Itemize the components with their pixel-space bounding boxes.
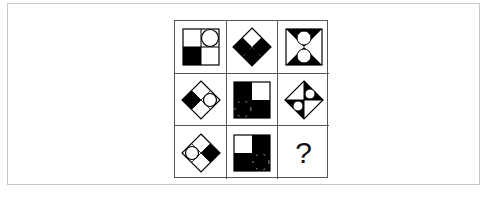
cell-r1c3 bbox=[278, 21, 329, 74]
cell-r3c1 bbox=[175, 126, 227, 179]
square-quadrant-icon bbox=[181, 27, 221, 67]
hourglass-icon bbox=[284, 27, 324, 67]
cell-r2c1 bbox=[175, 74, 227, 126]
square-quadrant-icon bbox=[232, 80, 272, 120]
question-mark: ? bbox=[295, 138, 312, 168]
diamond-triangles-icon bbox=[284, 80, 324, 120]
cell-r2c2 bbox=[227, 74, 278, 126]
diamond-quadrant-icon bbox=[181, 133, 221, 173]
cell-r1c2 bbox=[227, 21, 278, 74]
cell-r1c1 bbox=[175, 21, 227, 74]
puzzle-grid: ? bbox=[174, 20, 328, 178]
cell-r3c2 bbox=[227, 126, 278, 179]
diamond-quadrant-icon bbox=[232, 27, 272, 67]
puzzle-frame: ? bbox=[7, 3, 480, 185]
cell-r3c3-answer[interactable]: ? bbox=[278, 126, 329, 179]
square-quadrant-icon bbox=[232, 133, 272, 173]
diamond-quadrant-icon bbox=[181, 80, 221, 120]
cell-r2c3 bbox=[278, 74, 329, 126]
